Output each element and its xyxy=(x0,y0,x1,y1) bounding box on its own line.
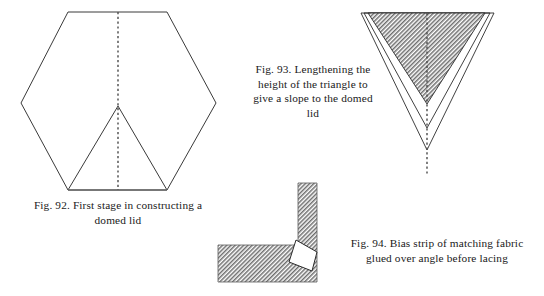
figure-92-caption: Fig. 92. First stage in constructing a d… xyxy=(2,198,234,227)
caption-line: domed lid xyxy=(2,213,234,228)
caption-line: lid xyxy=(243,106,383,121)
caption-line: Fig. 93. Lengthening the xyxy=(243,62,383,77)
fig-92-svg xyxy=(0,0,236,196)
caption-line: Fig. 92. First stage in constructing a xyxy=(2,198,234,213)
caption-line: Fig. 94. Bias strip of matching fabric xyxy=(332,236,542,251)
fig-94-svg xyxy=(210,178,330,290)
caption-line: glued over angle before lacing xyxy=(332,251,542,266)
figure-94-drawing xyxy=(210,178,330,290)
figure-93-caption: Fig. 93. Lengthening the height of the t… xyxy=(243,62,383,120)
figure-92-drawing xyxy=(0,0,236,196)
figure-94-caption: Fig. 94. Bias strip of matching fabric g… xyxy=(332,236,542,265)
caption-line: give a slope to the domed xyxy=(243,91,383,106)
figure-plate-page: Fig. 92. First stage in constructing a d… xyxy=(0,0,544,296)
caption-line: height of the triangle to xyxy=(243,77,383,92)
hexagon-outline xyxy=(21,12,216,190)
